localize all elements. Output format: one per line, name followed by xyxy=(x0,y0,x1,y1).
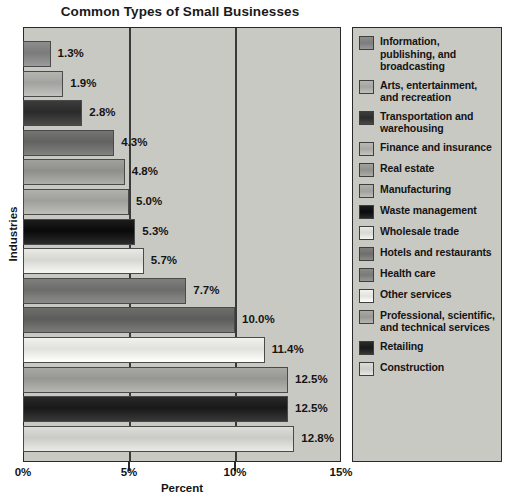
bar-value-label: 11.4% xyxy=(272,344,304,356)
legend-item[interactable]: Transportation and warehousing xyxy=(359,110,496,135)
legend-item[interactable]: Construction xyxy=(359,361,496,376)
legend-swatch-icon xyxy=(359,362,374,376)
legend-swatch-icon xyxy=(359,205,374,219)
bar-value-label: 2.8% xyxy=(89,107,115,119)
legend-item[interactable]: Other services xyxy=(359,288,496,303)
legend-item[interactable]: Real estate xyxy=(359,162,496,177)
legend-item-label: Information, publishing, and broadcastin… xyxy=(380,35,496,73)
bars-layer: 1.3%1.9%2.8%4.3%4.8%5.0%5.3%5.7%7.7%10.0… xyxy=(23,27,341,462)
legend-item[interactable]: Waste management xyxy=(359,204,496,219)
legend-item-label: Manufacturing xyxy=(380,183,451,196)
bar-value-label: 5.7% xyxy=(151,255,177,267)
bar xyxy=(23,100,82,126)
bar xyxy=(23,307,235,333)
legend-item[interactable]: Finance and insurance xyxy=(359,141,496,156)
bar-value-label: 5.3% xyxy=(142,226,168,238)
legend-item[interactable]: Arts, entertainment, and recreation xyxy=(359,79,496,104)
x-tick-label: 10% xyxy=(223,466,246,478)
bar xyxy=(23,189,129,215)
legend-item-label: Real estate xyxy=(380,162,434,175)
bar xyxy=(23,367,288,393)
bar-value-label: 10.0% xyxy=(242,314,275,326)
chart-screenshot: Common Types of Small Businesses 1.3%1.9… xyxy=(0,0,505,497)
legend-swatch-icon xyxy=(359,341,374,355)
legend-swatch-icon xyxy=(359,163,374,177)
bar-value-label: 1.3% xyxy=(58,48,84,60)
bar xyxy=(23,396,288,422)
legend-item-label: Health care xyxy=(380,267,436,280)
bar xyxy=(23,71,63,97)
legend-swatch-icon xyxy=(359,226,374,240)
x-tick-label: 5% xyxy=(121,466,138,478)
bar xyxy=(23,337,265,363)
legend-item-label: Hotels and restaurants xyxy=(380,246,492,259)
bar-value-label: 4.3% xyxy=(121,137,147,149)
legend-swatch-icon xyxy=(359,184,374,198)
bar-value-label: 5.0% xyxy=(136,196,162,208)
legend-item-label: Wholesale trade xyxy=(380,225,459,238)
bar-value-label: 12.5% xyxy=(295,403,328,415)
legend-item[interactable]: Hotels and restaurants xyxy=(359,246,496,261)
legend: Information, publishing, and broadcastin… xyxy=(352,27,502,462)
bar xyxy=(23,278,186,304)
x-tick-label: 0% xyxy=(15,466,32,478)
legend-swatch-icon xyxy=(359,247,374,261)
legend-swatch-icon xyxy=(359,36,374,50)
legend-item-label: Waste management xyxy=(380,204,477,217)
bar-value-label: 12.8% xyxy=(301,433,334,445)
bar xyxy=(23,159,125,185)
legend-item[interactable]: Professional, scientific, and technical … xyxy=(359,309,496,334)
legend-item-label: Construction xyxy=(380,361,444,374)
legend-item-label: Finance and insurance xyxy=(380,141,492,154)
legend-item-label: Transportation and warehousing xyxy=(380,110,496,135)
bar-value-label: 12.5% xyxy=(295,374,328,386)
legend-item[interactable]: Wholesale trade xyxy=(359,225,496,240)
chart-title: Common Types of Small Businesses xyxy=(0,4,360,19)
legend-item-label: Arts, entertainment, and recreation xyxy=(380,79,496,104)
legend-item[interactable]: Information, publishing, and broadcastin… xyxy=(359,35,496,73)
legend-swatch-icon xyxy=(359,111,374,125)
bar xyxy=(23,130,114,156)
legend-item[interactable]: Health care xyxy=(359,267,496,282)
bar xyxy=(23,219,135,245)
bar xyxy=(23,248,144,274)
bar xyxy=(23,426,294,452)
x-tick-label: 15% xyxy=(329,466,352,478)
legend-item-label: Retailing xyxy=(380,340,423,353)
legend-item[interactable]: Manufacturing xyxy=(359,183,496,198)
bar-value-label: 4.8% xyxy=(132,166,158,178)
legend-swatch-icon xyxy=(359,289,374,303)
legend-swatch-icon xyxy=(359,80,374,94)
bar-value-label: 7.7% xyxy=(193,285,219,297)
bar xyxy=(23,41,51,67)
legend-item-label: Other services xyxy=(380,288,452,301)
legend-item[interactable]: Retailing xyxy=(359,340,496,355)
bar-value-label: 1.9% xyxy=(70,78,96,90)
y-axis-title: Industries xyxy=(7,194,19,274)
legend-swatch-icon xyxy=(359,268,374,282)
legend-item-label: Professional, scientific, and technical … xyxy=(380,309,496,334)
legend-swatch-icon xyxy=(359,142,374,156)
x-axis-title: Percent xyxy=(23,482,341,494)
legend-swatch-icon xyxy=(359,310,374,324)
